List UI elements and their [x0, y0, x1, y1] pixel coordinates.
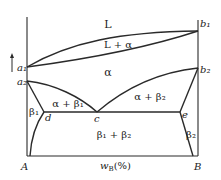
point-a2: a₂ [17, 76, 27, 87]
region-beta2: β₂ [186, 129, 196, 140]
region-alpha: α [104, 66, 112, 79]
region-liquid: L [104, 18, 112, 31]
phase-diagram: L L + α α α + β₁ α + β₂ β₁ β₁ + β₂ β₂ a₁… [0, 0, 221, 180]
region-alpha-beta2: α + β₂ [134, 91, 165, 102]
region-beta1: β₁ [29, 106, 39, 117]
point-c: c [94, 113, 100, 124]
region-beta1-beta2: β₁ + β₂ [97, 129, 131, 140]
x-axis-label-tail: (%) [114, 160, 131, 171]
point-e: e [182, 109, 188, 120]
point-a1: a₁ [17, 62, 27, 73]
component-a-label: A [20, 161, 28, 172]
x-axis-label: wB(%) [100, 160, 131, 173]
line-b2-e [180, 68, 198, 112]
point-d: d [45, 112, 51, 123]
point-b2: b₂ [200, 64, 210, 75]
region-alpha-beta1: α + β₁ [52, 98, 83, 109]
point-b1: b₁ [200, 18, 210, 29]
beta1-solvus [30, 112, 44, 156]
component-b-label: B [193, 161, 201, 172]
temperature-arrow-icon [10, 53, 14, 72]
region-liquid-alpha: L + α [104, 39, 132, 50]
